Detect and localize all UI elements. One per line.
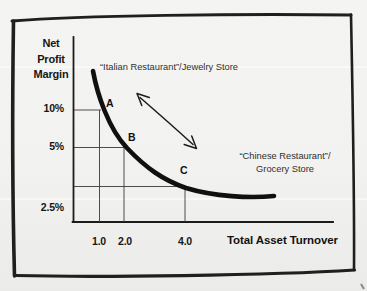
arrow-shaft (140, 98, 193, 145)
annotation-italian-restaurant-jewelry-store: “Italian Restaurant”/Jewelry Store (100, 62, 238, 72)
tradeoff-curve (93, 71, 274, 197)
y-axis-title-line: Net (27, 36, 75, 52)
point-label-c: C (180, 164, 188, 176)
y-tick-5pct: 5% (28, 140, 64, 152)
annotation-line: “Chinese Restaurant”/ (228, 150, 342, 163)
scanned-figure-page: THE PROFIT TURNOVER TRADE-OFF (0, 0, 367, 291)
x-tick-2-0: 2.0 (112, 235, 138, 247)
x-tick-1-0: 1.0 (86, 235, 112, 247)
y-axis-title-line: Margin (27, 67, 75, 83)
double-headed-arrow (137, 94, 197, 149)
y-tick-2-5pct: 2.5% (28, 201, 64, 213)
annotation-chinese-restaurant-grocery-store: “Chinese Restaurant”/ Grocery Store (228, 150, 342, 175)
point-label-a: A (106, 97, 114, 109)
scan-speck (361, 284, 364, 289)
y-tick-10pct: 10% (28, 102, 64, 114)
y-axis-title: Net Profit Margin (27, 36, 75, 83)
annotation-line: Grocery Store (228, 163, 342, 176)
reference-gridlines (74, 110, 185, 222)
y-axis-title-line: Profit (27, 52, 75, 68)
x-tick-4-0: 4.0 (172, 235, 198, 247)
point-label-b: B (128, 131, 136, 143)
x-axis-title: Total Asset Turnover (227, 234, 338, 246)
